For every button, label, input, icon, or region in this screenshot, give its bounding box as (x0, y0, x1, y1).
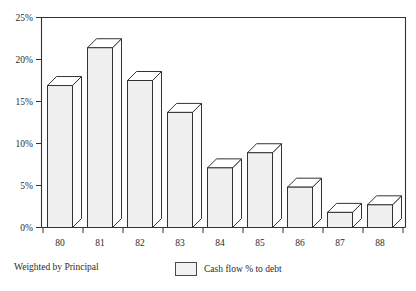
bar-87 (328, 203, 362, 227)
x-axis-ticks (43, 228, 403, 234)
y-tick-label-15: 15% (16, 97, 34, 107)
bar-84 (208, 159, 242, 228)
x-tick-label-80: 80 (55, 238, 65, 248)
bar-side-face (113, 39, 122, 228)
x-tick-label-88: 88 (375, 238, 385, 248)
chart-canvas: 0% 5% 10% 15% 20% 25% 808182838485868788 (0, 0, 416, 291)
bars-group (48, 39, 402, 228)
bar-front-face (288, 187, 313, 227)
y-tick-label-20: 20% (16, 55, 34, 65)
bar-83 (168, 103, 202, 227)
bar-front-face (128, 81, 153, 228)
x-tick-label-85: 85 (255, 238, 265, 248)
bar-side-face (73, 77, 82, 228)
bar-front-face (168, 112, 193, 227)
y-tick-label-0: 0% (20, 223, 33, 233)
bar-88 (368, 196, 402, 228)
x-tick-label-87: 87 (335, 238, 345, 248)
bar-side-face (273, 144, 282, 228)
bar-front-face (328, 212, 353, 227)
x-axis-labels: 808182838485868788 (55, 238, 385, 248)
bar-front-face (248, 153, 273, 228)
bar-82 (128, 72, 162, 228)
bar-side-face (233, 159, 242, 228)
x-tick-label-83: 83 (175, 238, 185, 248)
legend: Cash flow % to debt (175, 262, 282, 276)
footnote: Weighted by Principal (14, 262, 99, 272)
x-tick-label-86: 86 (295, 238, 305, 248)
bar-side-face (153, 72, 162, 228)
bar-85 (248, 144, 282, 228)
legend-swatch-cash-flow (175, 262, 197, 276)
bar-chart: 0% 5% 10% 15% 20% 25% 808182838485868788… (0, 0, 416, 291)
y-tick-label-25: 25% (16, 13, 34, 23)
bar-80 (48, 77, 82, 228)
y-tick-label-5: 5% (20, 181, 33, 191)
bar-front-face (48, 86, 73, 228)
bar-86 (288, 178, 322, 227)
y-axis-ticks (36, 18, 42, 228)
x-tick-label-81: 81 (95, 238, 105, 248)
bar-front-face (208, 168, 233, 228)
x-tick-label-84: 84 (215, 238, 225, 248)
y-axis-labels: 0% 5% 10% 15% 20% 25% (16, 13, 34, 233)
bar-front-face (368, 205, 393, 228)
legend-label-cash-flow: Cash flow % to debt (204, 264, 282, 274)
y-tick-label-10: 10% (16, 139, 34, 149)
bar-81 (88, 39, 122, 228)
x-tick-label-82: 82 (135, 238, 145, 248)
bar-side-face (193, 103, 202, 227)
bar-front-face (88, 48, 113, 228)
